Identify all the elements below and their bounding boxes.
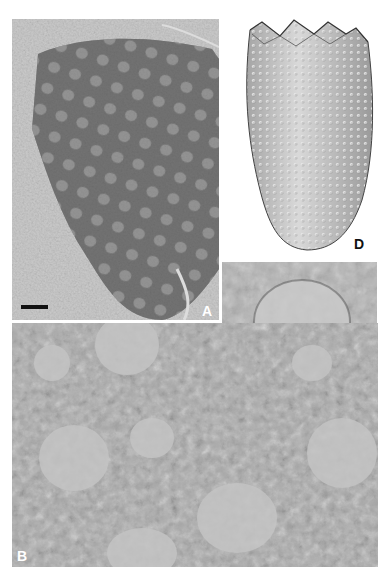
panel-b: B	[12, 323, 378, 567]
panel-label-a: A	[202, 304, 212, 318]
panel-a: A	[12, 19, 219, 320]
panel-label-d: D	[354, 237, 364, 251]
reconstruction-drawing	[222, 0, 391, 258]
surface-detail-photo	[12, 323, 378, 567]
panel-label-b: B	[17, 549, 27, 563]
fossil-specimen-photo	[12, 19, 219, 320]
scale-bar	[21, 305, 48, 309]
panel-d: D	[222, 0, 391, 258]
